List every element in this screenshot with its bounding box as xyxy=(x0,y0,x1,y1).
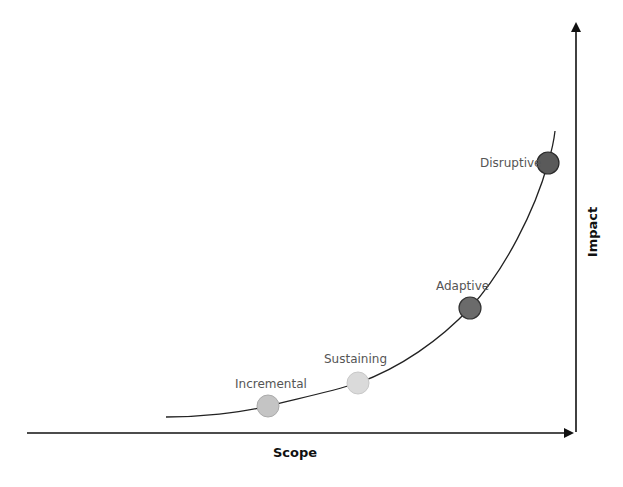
point-sustaining: Sustaining xyxy=(324,352,387,394)
sustaining-label: Sustaining xyxy=(324,352,387,366)
incremental-label: Incremental xyxy=(235,377,307,391)
sustaining-marker xyxy=(347,372,369,394)
y-axis-label: Impact xyxy=(585,207,600,257)
disruptive-label: Disruptive xyxy=(480,156,542,170)
point-disruptive: Disruptive xyxy=(480,152,559,174)
adaptive-label: Adaptive xyxy=(436,279,489,293)
adaptive-marker xyxy=(459,297,481,319)
point-adaptive: Adaptive xyxy=(436,279,489,319)
x-axis-label: Scope xyxy=(273,445,317,460)
innovation-diagram: Incremental Sustaining Adaptive Disrupti… xyxy=(0,0,623,487)
incremental-marker xyxy=(257,395,279,417)
